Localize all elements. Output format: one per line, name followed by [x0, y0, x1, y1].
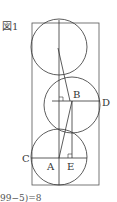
right-angle-mark-e: [68, 154, 72, 158]
figure-title: 図1: [2, 21, 18, 32]
label-a: A: [46, 161, 55, 172]
right-angle-mark-b: [59, 97, 63, 101]
segment-top-to-b: [58, 48, 70, 101]
segment-b-to-a: [59, 101, 72, 158]
label-d: D: [102, 97, 110, 108]
label-c: C: [22, 153, 30, 164]
figure-diagram: 図1 B D C A E 99−5)=8: [0, 0, 117, 202]
label-b: B: [73, 89, 80, 100]
outer-rectangle: [32, 23, 99, 185]
label-e: E: [67, 161, 74, 172]
footer-text: 99−5)=8: [0, 193, 42, 202]
